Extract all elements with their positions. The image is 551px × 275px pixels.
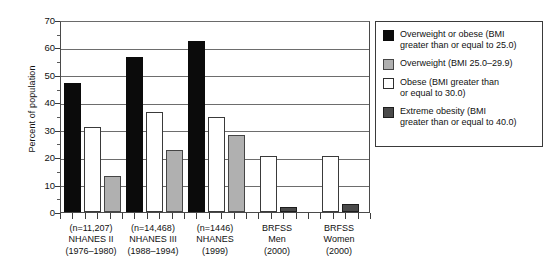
plot-area <box>60 21 370 213</box>
x-tick-mark <box>72 213 73 219</box>
bar-chart-figure: Percent of population (n=11,207)NHANES I… <box>0 0 551 275</box>
legend-label-line: Obese (BMI greater than <box>400 77 499 88</box>
chart-legend: Overweight or obese (BMIgreater than or … <box>375 21 543 147</box>
x-group-label-line: BRFSS <box>291 223 387 234</box>
x-tick-mark <box>184 213 185 219</box>
x-tick-mark <box>221 213 222 219</box>
x-group-label: BRFSSWomen(2000) <box>291 223 387 257</box>
x-tick-mark <box>283 213 284 219</box>
y-tick-label: 20 <box>15 153 55 163</box>
y-axis-title: Percent of population <box>27 29 37 189</box>
bar-black <box>188 41 205 212</box>
legend-swatch-white <box>383 78 394 89</box>
y-tick-mark <box>55 76 60 77</box>
y-tick-minor <box>57 35 60 36</box>
legend-label-line: Extreme obesity (BMI <box>400 106 517 117</box>
bar-white <box>260 156 277 212</box>
y-tick-label: 50 <box>15 71 55 81</box>
x-tick-mark <box>159 213 160 219</box>
legend-label: Overweight (BMI 25.0–29.9) <box>400 58 513 69</box>
legend-label-line: Overweight or obese (BMI <box>400 29 517 40</box>
y-tick-minor <box>57 172 60 173</box>
x-tick-mark <box>234 213 235 219</box>
y-tick-minor <box>57 199 60 200</box>
y-tick-label: 0 <box>15 208 55 218</box>
bar-dark <box>280 207 297 212</box>
gridline <box>61 49 369 50</box>
y-tick-minor <box>57 144 60 145</box>
x-tick-mark <box>246 213 247 219</box>
bar-white <box>208 117 225 212</box>
legend-label-line: greater than or equal to 25.0) <box>400 40 517 51</box>
legend-label-line: Overweight (BMI 25.0–29.9) <box>400 58 513 69</box>
gridline <box>61 76 369 77</box>
x-tick-mark <box>209 213 210 219</box>
x-tick-mark <box>258 213 259 219</box>
legend-swatch-black <box>383 30 394 41</box>
bar-black <box>126 57 143 212</box>
y-tick-minor <box>57 117 60 118</box>
y-tick-mark <box>55 103 60 104</box>
legend-label: Extreme obesity (BMIgreater than or equa… <box>400 106 517 128</box>
x-tick-mark <box>110 213 111 219</box>
legend-label-line: or equal to 30.0) <box>400 88 499 99</box>
x-tick-mark <box>60 213 61 219</box>
x-tick-mark <box>85 213 86 219</box>
legend-label: Overweight or obese (BMIgreater than or … <box>400 29 517 51</box>
bar-black <box>64 83 81 212</box>
legend-label-line: greater than or equal to 40.0) <box>400 117 517 128</box>
y-tick-minor <box>57 90 60 91</box>
gridline <box>61 104 369 105</box>
legend-item[interactable]: Obese (BMI greater thanor equal to 30.0) <box>383 77 536 99</box>
x-group-label-line: Women <box>291 234 387 245</box>
y-tick-mark <box>55 21 60 22</box>
y-tick-label: 10 <box>15 181 55 191</box>
x-tick-mark <box>370 213 371 219</box>
x-tick-mark <box>97 213 98 219</box>
x-tick-mark <box>296 213 297 219</box>
legend-item[interactable]: Overweight (BMI 25.0–29.9) <box>383 58 536 70</box>
x-tick-mark <box>320 213 321 219</box>
y-tick-mark <box>55 131 60 132</box>
y-tick-mark <box>55 186 60 187</box>
x-tick-mark <box>196 213 197 219</box>
x-tick-mark <box>358 213 359 219</box>
legend-item[interactable]: Extreme obesity (BMIgreater than or equa… <box>383 106 536 128</box>
y-tick-label: 70 <box>15 16 55 26</box>
y-tick-mark <box>55 213 60 214</box>
y-tick-label: 60 <box>15 43 55 53</box>
x-tick-mark <box>122 213 123 219</box>
bar-white <box>84 127 101 212</box>
legend-swatch-dark <box>383 107 394 118</box>
legend-item[interactable]: Overweight or obese (BMIgreater than or … <box>383 29 536 51</box>
y-tick-label: 30 <box>15 126 55 136</box>
y-tick-mark <box>55 158 60 159</box>
bar-white <box>322 156 339 212</box>
legend-label: Obese (BMI greater thanor equal to 30.0) <box>400 77 499 99</box>
x-tick-mark <box>333 213 334 219</box>
x-tick-mark <box>134 213 135 219</box>
bar-gray <box>104 176 121 212</box>
x-tick-mark <box>147 213 148 219</box>
y-tick-mark <box>55 48 60 49</box>
x-tick-mark <box>271 213 272 219</box>
bar-gray <box>166 150 183 212</box>
bar-white <box>146 112 163 212</box>
bar-dark <box>342 204 359 212</box>
bar-gray <box>228 135 245 212</box>
y-tick-label: 40 <box>15 98 55 108</box>
x-tick-mark <box>172 213 173 219</box>
x-group-label-line: (2000) <box>291 246 387 257</box>
x-tick-mark <box>308 213 309 219</box>
legend-swatch-gray <box>383 59 394 70</box>
x-tick-mark <box>345 213 346 219</box>
y-tick-minor <box>57 62 60 63</box>
